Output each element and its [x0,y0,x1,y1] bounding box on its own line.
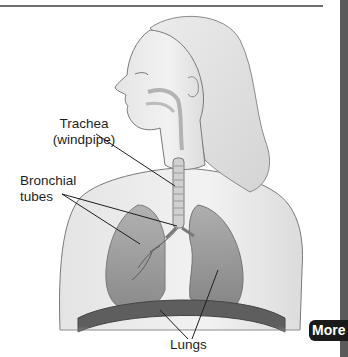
trachea-label-line2: (windpipe) [44,132,124,148]
bronchial-label-line1: Bronchial [20,173,76,189]
bronchial-label-line2: tubes [20,189,76,205]
trachea-label: Trachea (windpipe) [44,116,124,148]
lungs-label: Lungs [170,337,207,353]
more-button[interactable]: More [309,320,348,341]
bronchial-tubes-label: Bronchial tubes [20,173,76,205]
trachea-label-line1: Trachea [44,116,124,132]
